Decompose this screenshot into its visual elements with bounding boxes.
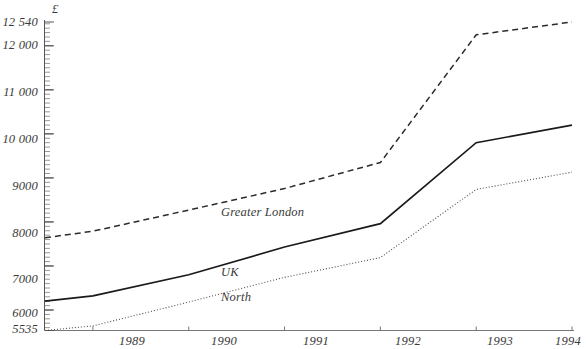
series-line-greater-london — [45, 22, 572, 238]
x-axis-ticks — [93, 327, 572, 331]
y-axis-ticks — [45, 22, 54, 331]
series-line-north — [45, 172, 572, 330]
axis-lines — [45, 20, 575, 331]
series-line-uk — [45, 125, 572, 301]
